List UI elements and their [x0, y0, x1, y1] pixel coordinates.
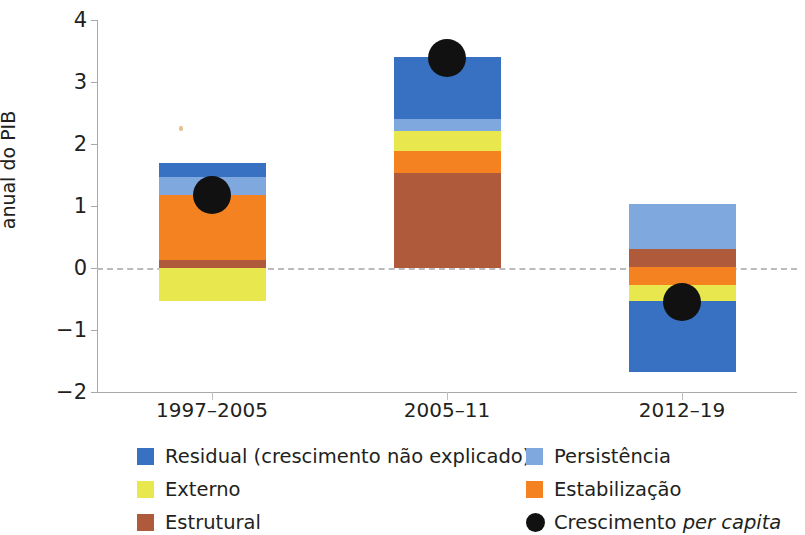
legend-label: Residual (crescimento não explicado) [165, 447, 530, 467]
legend-label: Estrutural [165, 513, 261, 533]
chart-legend: Residual (crescimento não explicado)Exte… [137, 447, 797, 532]
y-axis-tick-label: 1 [74, 196, 87, 217]
legend-item[interactable]: Estrutural [137, 513, 261, 533]
y-axis-tick [91, 20, 97, 21]
chart-figure: Taxa de crescimento média anual do PIB −… [0, 0, 805, 535]
y-axis-title: Taxa de crescimento média anual do PIB [0, 40, 21, 301]
y-axis-tick-label: −1 [56, 320, 87, 341]
legend-item[interactable]: Estabilização [526, 480, 682, 500]
plot-area: −2−1012341997–20052005–112012–19 [97, 20, 797, 392]
bar-segment[interactable] [394, 119, 501, 131]
x-axis-category-label: 2012–19 [582, 398, 782, 422]
y-axis-title-line-2: anual do PIB [0, 40, 21, 301]
bar-segment[interactable] [159, 268, 266, 301]
y-axis-tick-label: 2 [74, 134, 87, 155]
legend-swatch-icon [526, 448, 543, 465]
bar-segment[interactable] [629, 249, 736, 267]
y-axis-tick [91, 392, 97, 393]
y-axis-tick-label: 3 [74, 72, 87, 93]
y-axis-tick [91, 206, 97, 207]
x-axis-category-label: 1997–2005 [112, 398, 312, 422]
legend-label: Externo [165, 480, 240, 500]
legend-swatch-icon [526, 481, 543, 498]
bar-segment[interactable] [394, 151, 501, 173]
growth-per-capita-point[interactable] [193, 176, 231, 214]
legend-label: Persistência [554, 447, 671, 467]
y-axis-tick-label: −2 [56, 382, 87, 403]
y-axis-tick-label: 0 [74, 258, 87, 279]
legend-item[interactable]: Persistência [526, 447, 671, 467]
bar-segment[interactable] [629, 204, 736, 249]
y-axis-tick [91, 330, 97, 331]
growth-per-capita-point[interactable] [428, 39, 466, 77]
legend-swatch-icon [137, 448, 154, 465]
legend-swatch-icon [137, 481, 154, 498]
legend-label: Crescimento per capita [554, 513, 781, 533]
legend-item[interactable]: Residual (crescimento não explicado) [137, 447, 530, 467]
bar-group[interactable]: 2012–19 [629, 20, 736, 392]
y-axis-tick [91, 82, 97, 83]
y-axis-tick [91, 144, 97, 145]
bar-segment[interactable] [159, 260, 266, 268]
bar-segment[interactable] [394, 173, 501, 268]
legend-circle-icon [526, 513, 545, 532]
y-axis-tick-label: 4 [74, 10, 87, 31]
legend-swatch-icon [137, 514, 154, 531]
legend-item[interactable]: Crescimento per capita [526, 513, 781, 533]
bar-segment[interactable] [394, 131, 501, 151]
growth-per-capita-point[interactable] [663, 283, 701, 321]
x-axis-category-label: 2005–11 [347, 398, 547, 422]
legend-item[interactable]: Externo [137, 480, 240, 500]
legend-label: Estabilização [554, 480, 682, 500]
